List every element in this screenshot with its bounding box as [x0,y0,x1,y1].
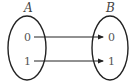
set-b-ellipse [92,16,128,80]
set-a-element-1: 1 [24,55,31,68]
set-a-ellipse [8,16,46,80]
set-a-element-0: 0 [24,31,31,44]
set-b-label: B [105,1,115,15]
mapping-diagram: A 0 1 B 0 1 [0,0,133,83]
set-a-label: A [23,1,33,15]
set-b-element-0: 0 [108,31,115,44]
set-b-element-1: 1 [108,55,115,68]
